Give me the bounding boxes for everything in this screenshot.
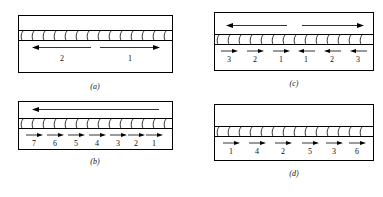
panel-c-top-arrow-1	[226, 22, 288, 29]
panel-b-segment-arrow-4	[89, 132, 106, 138]
panel-c-segment-label-1: 3	[220, 56, 238, 64]
panel-c-segment-arrow-1	[221, 48, 238, 54]
panel-b-segment-label-2: 6	[46, 140, 64, 148]
panel-d-segment-label-1: 1	[222, 148, 240, 156]
panel-c-segment-arrow-4	[298, 48, 315, 54]
panel-d-segment-arrow-1	[223, 140, 240, 146]
panel-d-segment-label-5: 3	[325, 148, 343, 156]
panel-b-segment-label-4: 4	[88, 140, 106, 148]
panel-d-segment-arrow-4	[302, 140, 319, 146]
panel-c-caption: (c)	[274, 80, 314, 88]
panel-b-segment-label-6: 2	[127, 140, 145, 148]
panel-c-segment-arrow-6	[350, 48, 367, 54]
panel-b-caption: (b)	[75, 158, 115, 166]
panel-c-segment-arrow-5	[324, 48, 341, 54]
panel-d-segment-label-2: 4	[248, 148, 266, 156]
panel-b-weld-band	[19, 118, 172, 129]
panel-b-segment-label-7: 1	[145, 140, 163, 148]
panel-c-segment-label-6: 3	[349, 56, 367, 64]
panel-a-caption: (a)	[75, 83, 115, 91]
panel-b-segment-arrow-1	[26, 132, 43, 138]
panel-c-segment-arrow-2	[247, 48, 264, 54]
panel-d-segment-arrow-2	[249, 140, 266, 146]
panel-b-top-arrow-1	[32, 106, 160, 113]
panel-c-top-arrow-2	[302, 22, 364, 29]
panel-d-caption: (d)	[274, 170, 314, 178]
panel-a-segment-label-2: 1	[120, 55, 140, 63]
panel-a-weld-band	[19, 30, 172, 41]
panel-d-weld-band	[215, 126, 373, 137]
panel-c-segment-arrow-3	[273, 48, 290, 54]
panel-b-segment-arrow-3	[68, 132, 85, 138]
panel-c-segment-label-4: 1	[297, 56, 315, 64]
panel-c-segment-label-5: 2	[323, 56, 341, 64]
panel-d: 1 4 2 5 3	[214, 104, 374, 161]
panel-d-segment-arrow-3	[275, 140, 292, 146]
panel-a-segment-label-1: 2	[52, 55, 72, 63]
panel-b-segment-arrow-6	[128, 132, 145, 138]
figure-container: 2 1 (a)	[0, 0, 383, 197]
panel-c-segment-label-3: 1	[272, 56, 290, 64]
panel-a-segment-arrow-1	[32, 44, 92, 51]
panel-d-segment-arrow-5	[326, 140, 343, 146]
panel-d-segment-arrow-6	[349, 140, 366, 146]
panel-b-segment-arrow-5	[110, 132, 127, 138]
panel-a-segment-arrow-2	[100, 44, 160, 51]
panel-b-segment-label-5: 3	[109, 140, 127, 148]
panel-a: 2 1 (a)	[18, 15, 173, 73]
panel-c: 3 2 1 1 2	[214, 12, 374, 71]
panel-b-segment-label-3: 5	[67, 140, 85, 148]
panel-c-segment-label-2: 2	[246, 56, 264, 64]
panel-b-segment-label-1: 7	[25, 140, 43, 148]
panel-d-segment-label-3: 2	[274, 148, 292, 156]
panel-b: 7 6 5 4 3	[18, 101, 173, 150]
panel-d-segment-label-4: 5	[301, 148, 319, 156]
panel-b-segment-arrow-7	[146, 132, 163, 138]
panel-b-segment-arrow-2	[47, 132, 64, 138]
panel-d-segment-label-6: 6	[348, 148, 366, 156]
panel-c-weld-band	[215, 34, 373, 45]
